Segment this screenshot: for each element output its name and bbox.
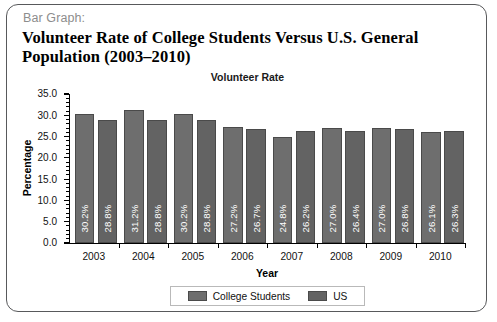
bar[interactable]: 28.8% (197, 120, 217, 243)
bar[interactable]: 24.8% (273, 137, 293, 243)
x-tick-label: 2004 (132, 251, 155, 262)
y-tick-minor (66, 132, 69, 133)
chart-title: Volunteer Rate (7, 71, 488, 83)
bar-value-label: 27.0% (376, 204, 387, 232)
legend-label: College Students (213, 291, 291, 302)
x-tick (465, 243, 466, 248)
bar[interactable]: 31.2% (124, 110, 144, 243)
bar-value-label: 28.8% (102, 204, 113, 232)
y-tick-minor (66, 208, 69, 209)
y-tick-minor (66, 234, 69, 235)
bar-group: 27.0%26.8% (372, 94, 415, 243)
bar-value-label: 30.2% (178, 204, 189, 232)
bar-group: 31.2%28.8% (124, 94, 167, 243)
legend-swatch (308, 291, 327, 301)
x-tick-label: 2005 (181, 251, 204, 262)
x-tick (168, 243, 169, 248)
x-axis-title: Year (69, 267, 465, 279)
chart-legend: College StudentsUS (170, 286, 365, 306)
bar[interactable]: 28.8% (147, 120, 167, 243)
y-tick-minor (66, 238, 69, 239)
bar-value-label: 26.3% (448, 204, 459, 232)
bar-value-label: 31.2% (128, 204, 139, 232)
y-tick-minor (66, 123, 69, 124)
bar-value-label: 24.8% (277, 204, 288, 232)
bar[interactable]: 27.2% (223, 127, 243, 243)
x-tick-label: 2010 (429, 251, 452, 262)
bar-group: 24.8%26.2% (273, 94, 316, 243)
bar-group: 30.2%28.8% (174, 94, 217, 243)
y-tick-minor (66, 213, 69, 214)
bar[interactable]: 26.7% (246, 129, 266, 243)
y-tick-major: 20.0 (64, 157, 69, 158)
bar-value-label: 26.4% (349, 204, 360, 232)
bar[interactable]: 30.2% (75, 114, 95, 243)
x-tick-label: 2009 (379, 251, 402, 262)
plot-area: 0.05.010.015.020.025.030.035.0 30.2%28.8… (69, 94, 465, 243)
y-tick-minor (66, 111, 69, 112)
y-tick-label: 5.0 (43, 216, 57, 227)
y-tick-minor (66, 140, 69, 141)
bar-value-label: 28.8% (151, 204, 162, 232)
bar[interactable]: 27.0% (322, 128, 342, 243)
y-tick-major: 0.0 (64, 242, 69, 243)
y-tick-label: 0.0 (43, 237, 57, 248)
legend-label: US (333, 291, 347, 302)
x-tick (267, 243, 268, 248)
bar[interactable]: 26.3% (444, 131, 464, 243)
y-tick-minor (66, 98, 69, 99)
x-tick (119, 243, 120, 248)
bar-group: 26.1%26.3% (421, 94, 464, 243)
kicker-label: Bar Graph: (23, 11, 85, 25)
bar[interactable]: 26.2% (296, 131, 316, 243)
bar[interactable]: 26.4% (345, 131, 365, 243)
legend-item[interactable]: College Students (188, 291, 291, 302)
y-tick-minor (66, 191, 69, 192)
legend-swatch (188, 291, 207, 301)
y-tick-label: 30.0 (38, 109, 57, 120)
bar[interactable]: 27.0% (372, 128, 392, 243)
x-tick (218, 243, 219, 248)
y-tick-major: 10.0 (64, 200, 69, 201)
y-tick-minor (66, 196, 69, 197)
y-tick-label: 15.0 (38, 173, 57, 184)
x-tick (416, 243, 417, 248)
y-tick-minor (66, 153, 69, 154)
legend-item[interactable]: US (308, 291, 347, 302)
y-tick-label: 20.0 (38, 152, 57, 163)
x-tick-label: 2006 (231, 251, 254, 262)
y-tick-minor (66, 149, 69, 150)
y-tick-minor (66, 217, 69, 218)
x-tick-label: 2008 (330, 251, 353, 262)
y-tick-minor (66, 225, 69, 226)
x-tick (366, 243, 367, 248)
y-tick-major: 25.0 (64, 136, 69, 137)
bar-group: 27.2%26.7% (223, 94, 266, 243)
bar[interactable]: 30.2% (174, 114, 194, 243)
y-tick-minor (66, 102, 69, 103)
y-tick-major: 35.0 (64, 93, 69, 94)
y-tick-minor (66, 183, 69, 184)
y-tick-minor (66, 106, 69, 107)
bar-value-label: 30.2% (79, 204, 90, 232)
y-tick-minor (66, 174, 69, 175)
y-tick-minor (66, 230, 69, 231)
y-axis-line (69, 94, 70, 243)
y-tick-major: 15.0 (64, 179, 69, 180)
y-tick-major: 5.0 (64, 221, 69, 222)
x-tick (317, 243, 318, 248)
bar-graph-card: Bar Graph: Volunteer Rate of College Stu… (6, 4, 487, 312)
bar-value-label: 27.2% (227, 204, 238, 232)
bar-value-label: 26.2% (300, 204, 311, 232)
page-title: Volunteer Rate of College Students Versu… (22, 28, 462, 66)
y-tick-minor (66, 119, 69, 120)
bar[interactable]: 26.8% (395, 129, 415, 243)
bar-value-label: 26.1% (425, 204, 436, 232)
y-tick-minor (66, 204, 69, 205)
y-tick-minor (66, 162, 69, 163)
bar[interactable]: 26.1% (421, 132, 441, 243)
y-tick-minor (66, 145, 69, 146)
y-tick-minor (66, 128, 69, 129)
y-tick-label: 10.0 (38, 194, 57, 205)
bar[interactable]: 28.8% (98, 120, 118, 243)
